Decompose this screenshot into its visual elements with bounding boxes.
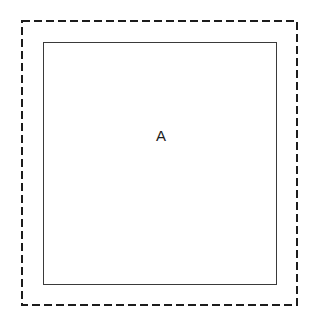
region-a-rectangle: A	[43, 42, 277, 285]
diagram-canvas: A	[0, 0, 319, 325]
region-a-label: A	[44, 128, 278, 143]
